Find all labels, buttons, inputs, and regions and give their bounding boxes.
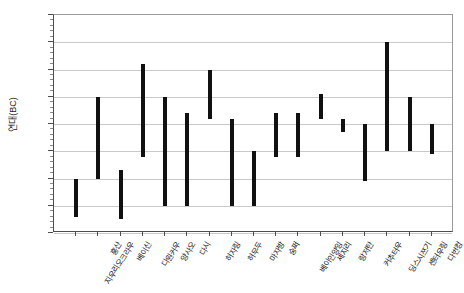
- range-bar: [385, 42, 389, 151]
- x-axis-category-label: 숭쩌: [287, 240, 302, 257]
- x-axis-tick-mark: [320, 232, 321, 236]
- range-bar: [341, 119, 345, 133]
- range-bar: [363, 124, 367, 181]
- x-axis-category-label: 베이신: [135, 240, 154, 263]
- x-axis-tick-mark: [342, 232, 343, 236]
- x-axis-category-label: 허자링: [223, 240, 242, 263]
- gridline: [54, 124, 452, 125]
- x-axis-category-label: 커추터우: [382, 240, 404, 269]
- x-axis-category-label: 다시: [198, 240, 213, 257]
- range-bar: [296, 113, 300, 157]
- gridline: [54, 206, 452, 207]
- x-axis-tick-mark: [253, 232, 254, 236]
- range-bar: [119, 170, 123, 219]
- x-axis-tick-mark: [164, 232, 165, 236]
- gridline: [54, 70, 452, 71]
- range-bar: [185, 113, 189, 206]
- range-bar: [230, 119, 234, 206]
- x-axis-tick-mark: [386, 232, 387, 236]
- x-axis-tick-mark: [409, 232, 410, 236]
- x-axis-tick-mark: [209, 232, 210, 236]
- range-bar: [274, 113, 278, 157]
- range-bar: [252, 151, 256, 206]
- x-axis-category-label: 다원커우: [160, 240, 182, 269]
- x-axis-category-label: 랑저탄: [357, 240, 376, 263]
- gridline: [54, 42, 452, 43]
- x-axis-tick-mark: [97, 232, 98, 236]
- x-axis-tick-mark: [297, 232, 298, 236]
- range-bar: [141, 64, 145, 157]
- x-axis-tick-mark: [120, 232, 121, 236]
- x-axis-category-label: 허무두: [246, 240, 265, 263]
- range-bar: [319, 94, 323, 119]
- range-bar: [96, 97, 100, 179]
- range-bar: [74, 179, 78, 217]
- range-bar: [208, 70, 212, 119]
- x-axis-category-label: 마자방: [268, 240, 287, 263]
- x-axis-tick-mark: [75, 232, 76, 236]
- x-axis-tick-mark: [142, 232, 143, 236]
- range-bar: [163, 97, 167, 206]
- y-axis-title: 연대(BC): [6, 70, 19, 160]
- x-axis-tick-mark: [364, 232, 365, 236]
- x-axis-tick-mark: [186, 232, 187, 236]
- plot-area: [53, 14, 453, 232]
- gridline: [54, 97, 452, 98]
- x-axis-tick-mark: [231, 232, 232, 236]
- x-axis-tick-mark: [275, 232, 276, 236]
- x-axis-tick-mark: [431, 232, 432, 236]
- range-bar: [430, 124, 434, 154]
- range-bar: [408, 97, 412, 152]
- y-axis-tick-mark: [48, 232, 53, 233]
